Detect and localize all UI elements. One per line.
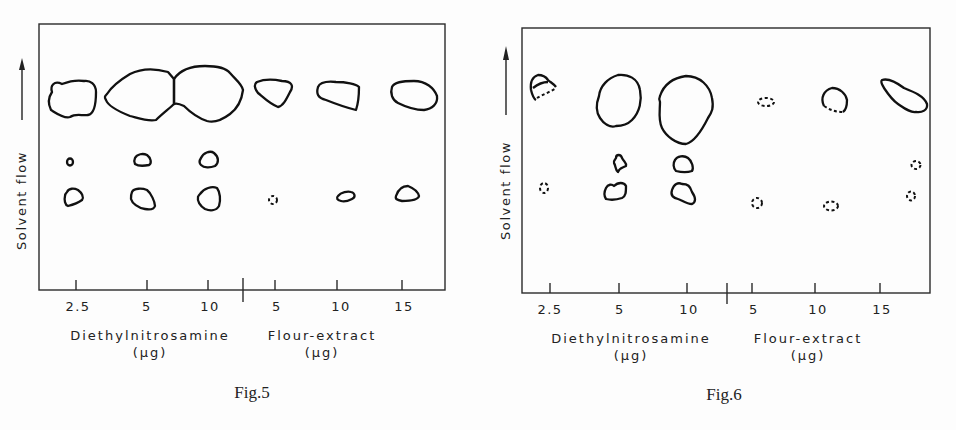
spot-trace bbox=[758, 98, 774, 106]
spots-upper-row bbox=[531, 75, 927, 144]
spot bbox=[881, 79, 927, 112]
tick-label: 2.5 bbox=[537, 302, 562, 317]
spot-trace bbox=[540, 183, 548, 193]
tick-label: 15 bbox=[872, 302, 892, 317]
group-title-diethylnitrosamine: Diethylnitrosamine (µg) bbox=[536, 330, 726, 364]
spot bbox=[597, 75, 641, 127]
figure-caption: Fig.6 bbox=[706, 385, 741, 405]
spot bbox=[605, 183, 627, 200]
spot-faint-edge bbox=[537, 88, 556, 98]
chromatogram-plot bbox=[0, 0, 956, 430]
plot-frame bbox=[522, 28, 930, 293]
spot bbox=[671, 183, 695, 204]
tick-label: 10 bbox=[808, 302, 828, 317]
spot bbox=[533, 82, 548, 88]
spots-middle-row bbox=[614, 155, 921, 172]
spot-trace bbox=[907, 192, 915, 201]
solvent-flow-arrow-icon bbox=[503, 46, 509, 115]
spot bbox=[674, 156, 693, 172]
tick-label: 10 bbox=[679, 302, 699, 317]
group-title-flour-extract: Flour-extract (µg) bbox=[738, 330, 878, 364]
spot-trace bbox=[752, 198, 762, 208]
spot-faint-edge bbox=[824, 106, 843, 112]
spot-trace bbox=[912, 161, 921, 169]
spot-trace bbox=[824, 202, 838, 211]
spot bbox=[531, 90, 536, 100]
figure-6: Solvent flow 2.5 5 10 5 10 15 Diethylnit… bbox=[0, 0, 956, 430]
spot bbox=[614, 155, 626, 172]
y-axis-label: Solvent flow bbox=[498, 141, 513, 240]
tick-label: 5 bbox=[615, 302, 625, 317]
spots-lower-row bbox=[540, 183, 915, 211]
tick-label: 5 bbox=[749, 302, 759, 317]
spot bbox=[659, 76, 713, 144]
